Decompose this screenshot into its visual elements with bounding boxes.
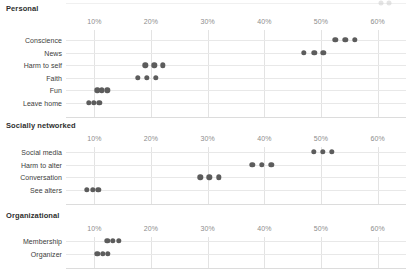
gridline xyxy=(321,147,322,204)
data-point xyxy=(153,75,158,80)
data-point xyxy=(91,100,96,105)
gridline xyxy=(264,147,265,204)
row-label-leave-home: Leave home xyxy=(23,100,62,107)
data-point xyxy=(105,238,110,243)
x-axis-tick-label: 60% xyxy=(371,135,385,142)
data-point xyxy=(250,162,255,167)
data-point xyxy=(94,251,99,256)
data-point xyxy=(311,149,316,154)
ghost-data-point xyxy=(378,1,383,6)
panel-baseline xyxy=(66,268,406,269)
row-gridline xyxy=(66,165,406,166)
x-axis-tick-label: 40% xyxy=(257,225,271,232)
data-point xyxy=(268,162,273,167)
data-point xyxy=(105,88,110,93)
x-axis-tick-label: 30% xyxy=(201,225,215,232)
data-point xyxy=(84,187,89,192)
data-point xyxy=(207,174,212,179)
data-point xyxy=(97,100,102,105)
data-point xyxy=(110,238,115,243)
panel-baseline xyxy=(66,204,406,205)
data-point xyxy=(198,174,203,179)
row-label-news: News xyxy=(44,49,62,56)
data-point xyxy=(329,149,334,154)
data-point xyxy=(143,62,148,67)
gridline xyxy=(151,147,152,204)
row-gridline xyxy=(66,103,406,104)
data-point xyxy=(321,50,326,55)
row-label-see-alters: See alters xyxy=(30,186,62,193)
x-axis-tick-label: 30% xyxy=(201,135,215,142)
panel-title-organizational: Organizational xyxy=(6,211,60,220)
row-label-fun: Fun xyxy=(50,87,62,94)
data-point xyxy=(320,149,325,154)
data-point xyxy=(99,88,104,93)
data-point xyxy=(160,62,165,67)
row-gridline xyxy=(66,152,406,153)
gridline xyxy=(94,147,95,204)
x-axis-tick-label: 10% xyxy=(87,18,101,25)
row-gridline xyxy=(66,65,406,66)
data-point xyxy=(352,37,357,42)
row-label-harm-to-alter: Harm to alter xyxy=(21,161,62,168)
panel-title-personal: Personal xyxy=(6,4,38,13)
row-label-membership: Membership xyxy=(23,238,62,245)
data-point xyxy=(332,37,337,42)
data-point xyxy=(96,187,101,192)
data-point xyxy=(116,238,121,243)
x-axis-tick-label: 60% xyxy=(371,18,385,25)
row-label-faith: Faith xyxy=(46,74,62,81)
x-axis-tick-label: 60% xyxy=(371,225,385,232)
x-axis-tick-label: 50% xyxy=(314,18,328,25)
row-gridline xyxy=(66,254,406,255)
row-label-conversation: Conversation xyxy=(20,174,62,181)
row-gridline xyxy=(66,90,406,91)
x-axis-tick-label: 30% xyxy=(201,18,215,25)
x-axis-tick-label: 20% xyxy=(144,225,158,232)
row-label-conscience: Conscience xyxy=(25,37,62,44)
row-gridline xyxy=(66,53,406,54)
gridline xyxy=(378,147,379,204)
x-axis-tick-label: 40% xyxy=(257,135,271,142)
x-axis-tick-label: 50% xyxy=(314,135,328,142)
row-label-social-media: Social media xyxy=(21,149,62,156)
data-point xyxy=(301,50,306,55)
row-gridline xyxy=(66,177,406,178)
panel-baseline xyxy=(66,117,406,118)
data-point xyxy=(343,37,348,42)
data-point xyxy=(311,50,316,55)
data-point xyxy=(135,75,140,80)
row-gridline xyxy=(66,78,406,79)
x-axis-tick-label: 10% xyxy=(87,225,101,232)
x-axis-tick-label: 10% xyxy=(87,135,101,142)
x-axis-tick-label: 20% xyxy=(144,18,158,25)
x-axis-tick-label: 20% xyxy=(144,135,158,142)
panel-title-socially-networked: Socially networked xyxy=(6,121,76,130)
row-gridline xyxy=(66,190,406,191)
ghost-data-point xyxy=(387,1,392,6)
x-axis-tick-label: 50% xyxy=(314,225,328,232)
data-point xyxy=(216,174,221,179)
data-point xyxy=(144,75,149,80)
data-point xyxy=(152,62,157,67)
x-axis-tick-label: 40% xyxy=(257,18,271,25)
cut-off-row-above xyxy=(0,0,412,8)
row-label-organizer: Organizer xyxy=(31,250,62,257)
ghost-rowline xyxy=(66,3,406,4)
row-label-harm-to-self: Harm to self xyxy=(24,62,62,69)
data-point xyxy=(105,251,110,256)
